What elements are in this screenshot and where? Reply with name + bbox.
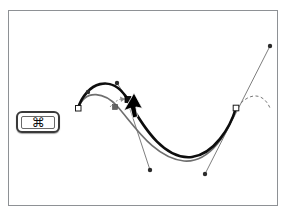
command-keycap[interactable]: ⌘ <box>16 111 60 133</box>
command-keycap-inner-bevel: ⌘ <box>21 116 55 129</box>
command-key-glyph: ⌘ <box>32 116 45 129</box>
illustration-root: ⌘ <box>0 0 287 215</box>
figure-frame <box>8 10 278 206</box>
